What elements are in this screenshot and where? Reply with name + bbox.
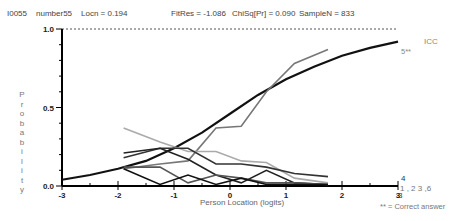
category-label-3: 3 — [398, 191, 402, 200]
icc-legend-label: ICC — [424, 37, 438, 46]
icc-curve — [62, 42, 398, 180]
x-tick-label: 1 — [284, 191, 289, 200]
category-labels-row: 1 , 2 3 ,6 — [400, 184, 431, 193]
x-tick-label: 2 — [340, 191, 345, 200]
y-tick-label: 0.0 — [43, 182, 55, 191]
chart-plot-area: 0.00.51.0-3-2-10123 — [0, 0, 457, 221]
chart-series — [62, 42, 398, 185]
y-tick-label: 0.5 — [43, 104, 55, 113]
series-line-2 — [124, 148, 328, 176]
x-tick-label: -1 — [170, 191, 178, 200]
y-tick-label: 1.0 — [43, 25, 55, 34]
correct-option-label: 5** — [401, 47, 411, 56]
category-label-4: 4 — [401, 174, 405, 183]
x-tick-label: -2 — [114, 191, 122, 200]
x-axis-label: Person Location (logits) — [200, 198, 284, 207]
series-line-5 — [124, 49, 328, 168]
series-line-1 — [124, 128, 328, 183]
correct-answer-note: ** = Correct answer — [380, 202, 445, 211]
x-tick-label: -3 — [58, 191, 66, 200]
